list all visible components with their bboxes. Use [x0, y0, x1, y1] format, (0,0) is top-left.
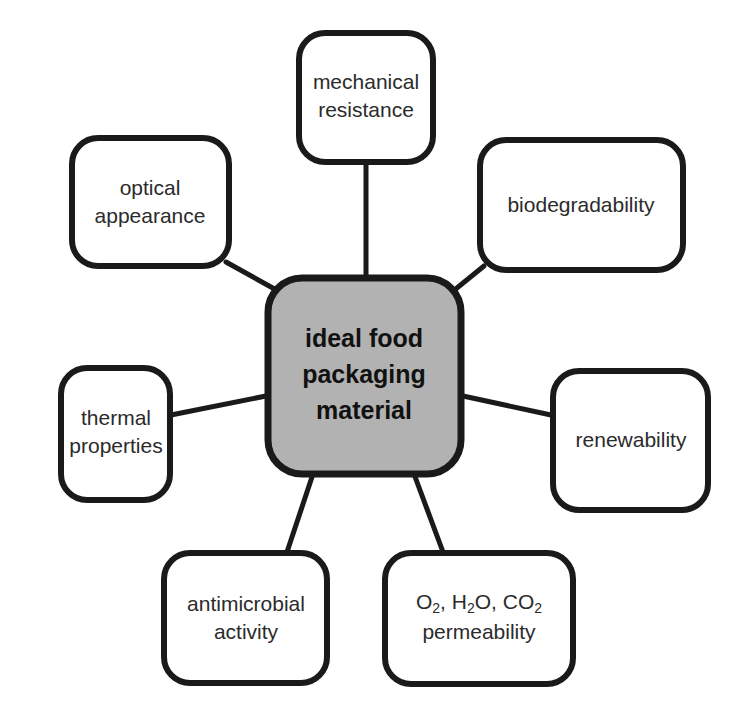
mind-map-svg: mechanical resistance optical appearance…: [0, 0, 734, 723]
node-antimicrobial-activity[interactable]: antimicrobial activity: [164, 553, 327, 683]
node-mechanical-resistance-label: mechanical: [313, 70, 419, 93]
node-gas-permeability[interactable]: O2, H2O, CO2 permeability: [385, 553, 573, 684]
node-gas-permeability-shape[interactable]: [385, 553, 573, 684]
formula-co2-subscript: 2: [534, 600, 542, 616]
formula-o2-symbol: O: [416, 590, 432, 613]
node-center-label-line1: ideal food: [305, 324, 423, 352]
formula-o2-subscript: 2: [432, 600, 440, 616]
node-renewability-label: renewability: [576, 428, 687, 451]
connector-center-to-gas-permeability: [414, 474, 443, 552]
node-optical-appearance[interactable]: optical appearance: [72, 138, 229, 266]
node-renewability[interactable]: renewability: [553, 371, 708, 510]
node-biodegradability-label: biodegradability: [507, 193, 655, 216]
node-center-label-line2: packaging: [302, 360, 426, 388]
node-biodegradability[interactable]: biodegradability: [480, 140, 683, 270]
node-thermal-properties-label-line2: properties: [69, 434, 162, 457]
connector-center-to-thermal-properties: [171, 396, 266, 415]
node-antimicrobial-activity-label: antimicrobial: [187, 592, 305, 615]
node-thermal-properties[interactable]: thermal properties: [61, 368, 170, 500]
node-antimicrobial-activity-shape[interactable]: [164, 553, 327, 683]
node-center-ideal-food-packaging-material[interactable]: ideal food packaging material: [268, 278, 461, 474]
node-antimicrobial-activity-label-line2: activity: [214, 620, 279, 643]
formula-h2-symbol: , H: [440, 590, 467, 613]
node-optical-appearance-label: optical: [120, 176, 181, 199]
node-optical-appearance-shape[interactable]: [72, 138, 229, 266]
diagram-canvas: mechanical resistance optical appearance…: [0, 0, 734, 723]
connector-center-to-antimicrobial-activity: [287, 474, 313, 552]
connector-center-to-biodegradability: [452, 266, 484, 292]
node-mechanical-resistance-label-line2: resistance: [318, 98, 414, 121]
node-center-label-line3: material: [316, 396, 412, 424]
formula-h2-subscript: 2: [467, 600, 475, 616]
node-gas-permeability-label-line2: permeability: [422, 620, 536, 643]
connector-center-to-optical-appearance: [226, 262, 280, 292]
formula-co-symbol: O, CO: [475, 590, 535, 613]
node-optical-appearance-label-line2: appearance: [95, 204, 206, 227]
node-thermal-properties-label: thermal: [81, 406, 151, 429]
connector-center-to-renewability: [463, 396, 551, 415]
node-mechanical-resistance[interactable]: mechanical resistance: [299, 33, 433, 162]
